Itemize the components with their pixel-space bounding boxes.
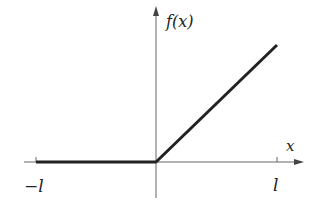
y-axis-label: f(x) — [165, 12, 193, 31]
function-graph: f(x) x −l l — [0, 0, 316, 211]
x-axis-arrow-icon — [294, 159, 304, 165]
x-axis-label: x — [286, 137, 295, 155]
y-axis-arrow-icon — [153, 6, 159, 16]
tick-label-left: −l — [24, 176, 44, 196]
tick-label-right: l — [273, 175, 278, 195]
